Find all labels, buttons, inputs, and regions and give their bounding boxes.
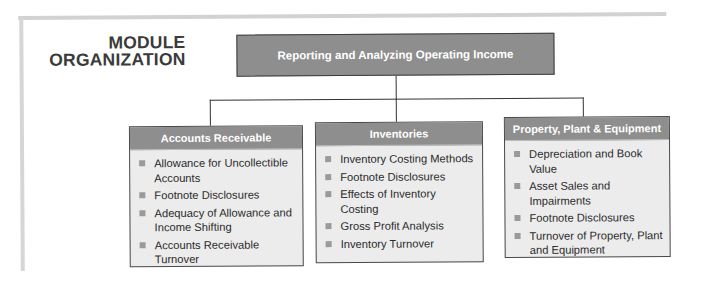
- list-item: Effects of Inventory Costing: [324, 186, 476, 216]
- square-bullet-icon: [140, 242, 146, 248]
- list-item-label: Footnote Disclosures: [340, 170, 445, 183]
- node-accounts-receivable: Accounts Receivable Allowance for Uncoll…: [129, 125, 304, 267]
- frame-left-rule: [19, 18, 25, 271]
- square-bullet-icon: [326, 223, 332, 229]
- list-item-label: Accounts Receivable Turnover: [155, 238, 260, 265]
- topic-list: Allowance for Uncollectible Accounts Foo…: [130, 149, 303, 267]
- module-title: MODULE ORGANIZATION: [39, 34, 185, 69]
- list-item: Adequacy of Allowance and Income Shiftin…: [138, 205, 296, 235]
- connector-to-accounts-receivable: [210, 100, 211, 127]
- square-bullet-icon: [325, 191, 331, 197]
- list-item-label: Inventory Turnover: [341, 237, 434, 250]
- square-bullet-icon: [325, 174, 331, 180]
- connector-root-down: [396, 76, 397, 100]
- square-bullet-icon: [514, 183, 520, 189]
- list-item: Footnote Disclosures: [513, 210, 663, 225]
- list-item-label: Inventory Costing Methods: [340, 152, 473, 165]
- list-item-label: Allowance for Uncollectible Accounts: [154, 156, 288, 183]
- topic-list: Inventory Costing Methods Footnote Discl…: [316, 145, 483, 251]
- square-bullet-icon: [515, 232, 521, 238]
- list-item-label: Turnover of Property, Plant and Equipmen…: [530, 229, 663, 256]
- list-item: Inventory Turnover: [325, 236, 477, 251]
- list-item: Inventory Costing Methods: [324, 151, 476, 166]
- module-title-line2: ORGANIZATION: [39, 51, 185, 69]
- square-bullet-icon: [139, 192, 145, 198]
- list-item: Gross Profit Analysis: [324, 218, 476, 233]
- square-bullet-icon: [325, 156, 331, 162]
- list-item: Asset Sales and Impairments: [513, 178, 663, 208]
- root-node-label: Reporting and Analyzing Operating Income: [277, 48, 513, 61]
- node-header: Inventories: [316, 122, 482, 146]
- square-bullet-icon: [139, 160, 145, 166]
- square-bullet-icon: [514, 215, 520, 221]
- list-item-label: Gross Profit Analysis: [340, 219, 443, 232]
- list-item: Depreciation and Book Value: [513, 146, 663, 176]
- list-item-label: Depreciation and Book Value: [529, 147, 642, 174]
- module-organization-diagram: MODULE ORGANIZATION Reporting and Analyz…: [0, 0, 701, 285]
- frame-top-rule: [18, 12, 666, 20]
- list-item: Accounts Receivable Turnover: [139, 237, 297, 267]
- list-item: Footnote Disclosures: [324, 169, 476, 184]
- list-item-label: Effects of Inventory Costing: [340, 187, 436, 214]
- square-bullet-icon: [326, 241, 332, 247]
- connector-to-inventories: [396, 99, 397, 123]
- square-bullet-icon: [139, 210, 145, 216]
- list-item: Allowance for Uncollectible Accounts: [138, 155, 296, 185]
- node-header: Property, Plant & Equipment: [505, 117, 669, 141]
- square-bullet-icon: [514, 151, 520, 157]
- list-item: Footnote Disclosures: [138, 187, 296, 202]
- topic-list: Depreciation and Book Value Asset Sales …: [505, 140, 670, 257]
- node-inventories: Inventories Inventory Costing Methods Fo…: [315, 121, 484, 263]
- list-item-label: Footnote Disclosures: [154, 189, 259, 202]
- node-property-plant-equipment: Property, Plant & Equipment Depreciation…: [504, 116, 671, 258]
- root-node: Reporting and Analyzing Operating Income: [236, 33, 554, 77]
- connector-to-ppe: [583, 98, 584, 118]
- list-item-label: Asset Sales and Impairments: [529, 179, 610, 206]
- list-item: Turnover of Property, Plant and Equipmen…: [514, 228, 664, 258]
- list-item-label: Adequacy of Allowance and Income Shiftin…: [154, 206, 292, 233]
- list-item-label: Footnote Disclosures: [529, 211, 634, 224]
- node-header: Accounts Receivable: [130, 126, 302, 150]
